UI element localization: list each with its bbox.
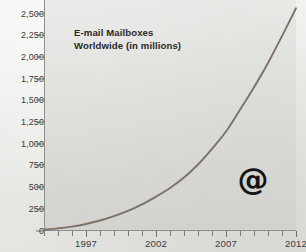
chart-figure: 02505007501,0001,2501,5001,7502,0002,250… bbox=[0, 0, 306, 252]
chart-title-line-2: Worldwide (in millions) bbox=[74, 40, 224, 53]
chart-title: E-mail Mailboxes Worldwide (in millions) bbox=[74, 27, 224, 52]
chart-title-line-1: E-mail Mailboxes bbox=[74, 27, 224, 40]
at-symbol-annotation: @ bbox=[238, 164, 269, 195]
